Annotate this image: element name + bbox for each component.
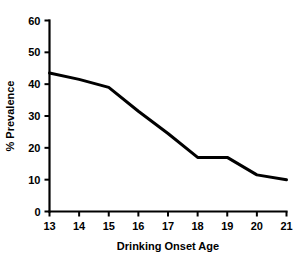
y-tick-label: 30 (28, 110, 40, 122)
x-axis-title: Drinking Onset Age (117, 240, 219, 252)
x-tick-label: 14 (73, 220, 86, 232)
y-tick-label: 40 (28, 78, 40, 90)
x-tick-label: 21 (280, 220, 292, 232)
y-tick-label: 50 (28, 46, 40, 58)
chart-figure: 0102030405060 131415161718192021 Drinkin… (0, 0, 300, 258)
x-tick-label: 13 (43, 220, 55, 232)
x-tick-label: 18 (192, 220, 204, 232)
y-axis-title: % Prevalence (4, 81, 16, 152)
x-tick-label: 17 (162, 220, 174, 232)
y-tick-label: 20 (28, 142, 40, 154)
x-tick-label: 16 (132, 220, 144, 232)
x-tick-label: 19 (221, 220, 233, 232)
x-tick-label: 15 (103, 220, 115, 232)
y-tick-label: 10 (28, 174, 40, 186)
y-tick-label: 0 (34, 206, 40, 218)
y-tick-label: 60 (28, 15, 40, 27)
x-tick-label: 20 (251, 220, 263, 232)
line-chart: 0102030405060 131415161718192021 Drinkin… (0, 0, 300, 258)
